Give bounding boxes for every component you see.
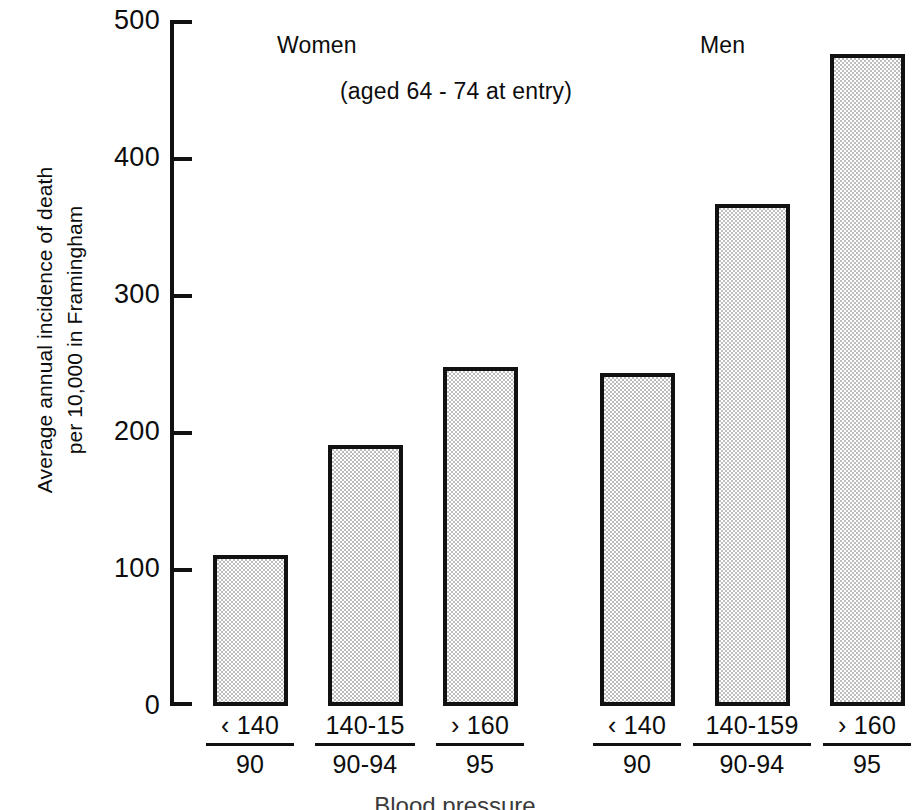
x-axis-title: Blood pressure <box>0 792 910 810</box>
bar-women-140-15-90-94[interactable] <box>328 445 403 706</box>
bar-men-gt160-95[interactable] <box>830 54 905 706</box>
bar-women-lt140-90[interactable] <box>213 555 288 706</box>
bar-women-gt160-95[interactable] <box>443 367 518 706</box>
fraction-rule-1 <box>315 743 415 746</box>
x-tick-denominator-5: 95 <box>792 749 915 780</box>
bar-men-lt140-90[interactable] <box>600 373 675 706</box>
x-tick-label-2: › 160 95 <box>405 710 555 780</box>
fraction-rule-2 <box>436 743 524 746</box>
x-tick-label-5: › 160 95 <box>792 710 915 780</box>
fraction-rule-5 <box>823 743 911 746</box>
x-tick-numerator-5: › 160 <box>792 710 915 741</box>
bar-men-140-159-90-94[interactable] <box>715 204 790 706</box>
x-tick-denominator-2: 95 <box>405 749 555 780</box>
fraction-rule-0 <box>206 743 294 746</box>
x-tick-numerator-2: › 160 <box>405 710 555 741</box>
fraction-rule-3 <box>593 743 681 746</box>
